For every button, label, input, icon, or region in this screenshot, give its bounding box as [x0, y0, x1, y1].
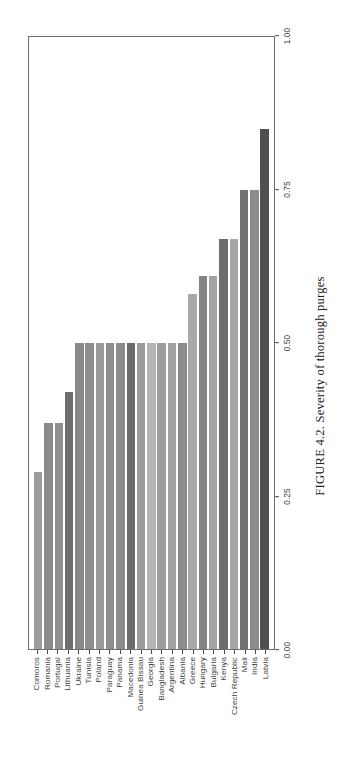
category-tick-row: Latvia [261, 650, 271, 736]
bar-row [229, 37, 239, 649]
category-label: Comoros [33, 657, 41, 691]
bar[interactable] [178, 343, 186, 649]
category-tick-row: Georgia [146, 650, 156, 736]
figure-inner: ComorosRomaniaPortugalLithuaniaUkraineTu… [28, 36, 328, 736]
value-tick-label: 0.75 [282, 181, 292, 197]
category-tick-row: Guinea Bissau [136, 650, 146, 736]
bar[interactable] [116, 343, 124, 649]
figure-caption-text: Severity of thorough purges [313, 276, 327, 422]
category-label: Portugal [54, 657, 62, 688]
category-tick-mark [78, 650, 79, 654]
bar-row [54, 37, 64, 649]
category-axis: ComorosRomaniaPortugalLithuaniaUkraineTu… [28, 650, 275, 736]
bar[interactable] [55, 422, 63, 648]
plot-panel [28, 36, 275, 650]
bar-row [74, 37, 84, 649]
category-tick-mark [255, 650, 256, 654]
category-tick-mark [109, 650, 110, 654]
bar-row [136, 37, 146, 649]
category-tick-row: Paraguay [105, 650, 115, 736]
bar[interactable] [85, 343, 93, 649]
bar-row [239, 37, 249, 649]
category-tick-mark [68, 650, 69, 654]
rotated-figure-stage: ComorosRomaniaPortugalLithuaniaUkraineTu… [28, 36, 328, 736]
value-tick-label: 0.00 [282, 641, 292, 657]
category-label: Paraguay [106, 657, 114, 692]
category-tick-row: Bulgaria [209, 650, 219, 736]
category-tick-row: Argentina [167, 650, 177, 736]
bar[interactable] [157, 343, 165, 649]
value-tick-label: 1.00 [282, 27, 292, 43]
category-label: Georgia [147, 657, 155, 687]
value-tick: 1.00 [275, 27, 292, 43]
bar[interactable] [219, 238, 227, 648]
bar[interactable] [34, 471, 42, 648]
category-label: Guinea Bissau [137, 657, 145, 711]
category-tick-mark [130, 650, 131, 654]
value-tick-mark [275, 342, 279, 343]
bar[interactable] [65, 391, 73, 648]
bar[interactable] [260, 128, 268, 648]
category-label: Greece [189, 657, 197, 684]
category-tick-row: Greece [188, 650, 198, 736]
category-label: Hungary [199, 657, 207, 688]
category-tick-row: Romania [42, 650, 52, 736]
bar-row [208, 37, 218, 649]
category-label: Argentina [168, 657, 176, 693]
bar[interactable] [96, 343, 104, 649]
value-tick-label: 0.25 [282, 488, 292, 504]
value-tick-mark [275, 189, 279, 190]
value-tick: 0.25 [275, 488, 292, 504]
bar[interactable] [240, 190, 248, 649]
category-tick-row: Ukraine [74, 650, 84, 736]
bar-row [187, 37, 197, 649]
category-tick-row: Kenya [219, 650, 229, 736]
bar[interactable] [75, 343, 83, 649]
bar[interactable] [199, 275, 207, 648]
category-label: Czech Republic [231, 657, 239, 715]
value-tick-mark [275, 35, 279, 36]
category-tick-mark [193, 650, 194, 654]
bar[interactable] [44, 422, 52, 648]
category-tick-row: India [250, 650, 260, 736]
value-tick-mark [275, 496, 279, 497]
value-tick: 0.00 [275, 641, 292, 657]
figure-caption: FIGURE 4.2. Severity of thorough purges [309, 36, 328, 736]
bar[interactable] [250, 190, 258, 649]
bar-row [249, 37, 259, 649]
bar-row [43, 37, 53, 649]
bar[interactable] [147, 343, 155, 649]
bar-row [260, 37, 270, 649]
category-label: Latvia [262, 657, 270, 679]
figure-number: FIGURE 4.2. [313, 425, 327, 495]
category-tick-mark [161, 650, 162, 654]
category-tick-mark [57, 650, 58, 654]
category-tick-row: Tunisia [84, 650, 94, 736]
bar[interactable] [106, 343, 114, 649]
bar-row [84, 37, 94, 649]
bar[interactable] [127, 343, 135, 649]
category-tick-mark [37, 650, 38, 654]
bar-row [177, 37, 187, 649]
category-label: Bangladesh [158, 657, 166, 701]
category-label: Ukraine [75, 657, 83, 686]
bar[interactable] [209, 275, 217, 648]
category-tick-row: Bangladesh [157, 650, 167, 736]
value-tick: 0.75 [275, 181, 292, 197]
bar[interactable] [137, 343, 145, 649]
category-tick-row: Mali [240, 650, 250, 736]
category-label: Mali [241, 657, 249, 672]
category-label: Tunisia [85, 657, 93, 684]
bar[interactable] [230, 238, 238, 648]
bar[interactable] [188, 294, 196, 649]
bar-row [115, 37, 125, 649]
category-tick-mark [245, 650, 246, 654]
bar-row [64, 37, 74, 649]
category-tick-mark [89, 650, 90, 654]
category-tick-row: Macedonia [126, 650, 136, 736]
bar-row [126, 37, 136, 649]
bar-row [105, 37, 115, 649]
category-tick-mark [213, 650, 214, 654]
bar[interactable] [168, 343, 176, 649]
category-tick-row: Comoros [32, 650, 42, 736]
